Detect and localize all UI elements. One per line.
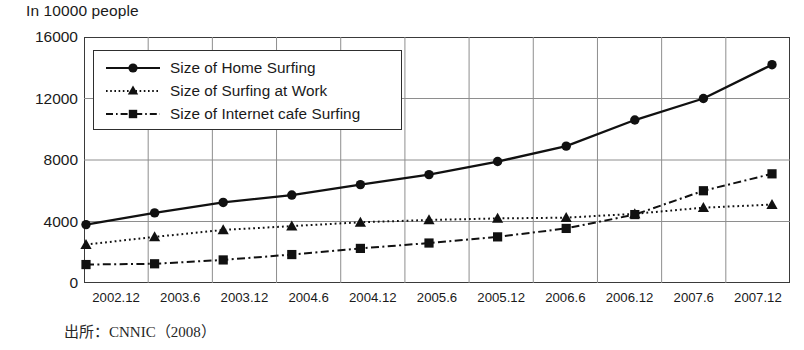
x-axis-tick-2005.12: 2005.12 (477, 290, 525, 305)
x-axis-tick-2002.12: 2002.12 (92, 290, 140, 305)
legend-label-internet-cafe-surfing: Size of Internet cafe Surfing (170, 105, 360, 123)
legend-label-surfing-at-work: Size of Surfing at Work (170, 82, 327, 100)
y-axis-tick-16000: 16000 (2, 28, 78, 46)
x-axis-tick-2004.12: 2004.12 (349, 290, 397, 305)
solid-line-circle-marker-icon (102, 57, 164, 79)
source-note: 出所：CNNIC（2008） (64, 320, 216, 341)
x-axis-tick-2007.12: 2007.12 (734, 290, 782, 305)
x-axis-tick-2003.12: 2003.12 (221, 290, 269, 305)
x-axis-tick-2004.6: 2004.6 (288, 290, 328, 305)
line-chart: In 10000 people 0400080001200016000 2002… (0, 0, 804, 350)
x-axis-tick-2007.6: 2007.6 (674, 290, 714, 305)
x-axis-tick-2006.6: 2006.6 (545, 290, 585, 305)
y-axis-tick-4000: 4000 (2, 213, 78, 231)
x-axis-tick-2006.12: 2006.12 (606, 290, 654, 305)
dashdot-line-square-marker-icon (102, 103, 164, 125)
chart-legend: Size of Home Surfing Size of Surfing at … (93, 50, 402, 130)
x-axis-tick-2003.6: 2003.6 (160, 290, 200, 305)
legend-label-home-surfing: Size of Home Surfing (170, 59, 316, 77)
legend-item-surfing-at-work: Size of Surfing at Work (94, 79, 401, 102)
y-axis-tick-labels: 0400080001200016000 (0, 0, 78, 350)
y-axis-tick-0: 0 (2, 274, 78, 292)
dotted-line-triangle-marker-icon (102, 80, 164, 102)
y-axis-tick-12000: 12000 (2, 90, 78, 108)
legend-item-internet-cafe-surfing: Size of Internet cafe Surfing (94, 102, 401, 125)
y-axis-tick-8000: 8000 (2, 151, 78, 169)
x-axis-tick-2005.6: 2005.6 (417, 290, 457, 305)
legend-item-home-surfing: Size of Home Surfing (94, 56, 401, 79)
